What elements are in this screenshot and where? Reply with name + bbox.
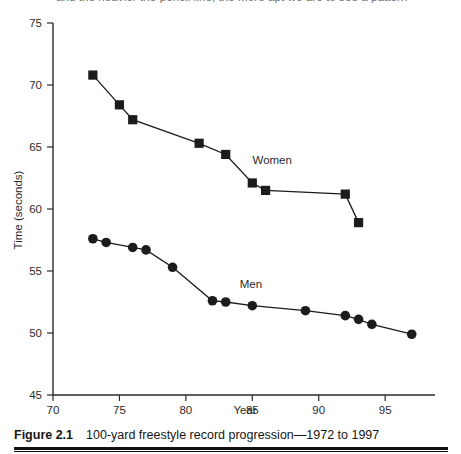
- y-axis-title: Time (seconds): [12, 170, 24, 249]
- data-point-square: [221, 150, 230, 159]
- y-tick-label: 45: [29, 389, 42, 401]
- data-point-square: [88, 70, 97, 79]
- axis-lines: [53, 23, 435, 395]
- x-axis-title: Year: [233, 404, 256, 416]
- data-point-circle: [407, 329, 417, 339]
- figure-caption-text: 100-yard freestyle record progression—19…: [86, 428, 379, 442]
- data-point-square: [195, 139, 204, 148]
- caption-rule-thin: [14, 451, 448, 452]
- y-tick-label: 70: [29, 79, 42, 91]
- x-tick-label: 80: [179, 404, 192, 416]
- data-point-circle: [340, 311, 350, 321]
- x-tick-label: 90: [312, 404, 325, 416]
- data-point-circle: [141, 245, 151, 255]
- series-line-women: [93, 75, 359, 223]
- series-women: [88, 70, 363, 227]
- y-tick-label: 75: [29, 17, 42, 29]
- figure-caption-label: Figure 2.1: [14, 428, 73, 442]
- data-point-circle: [88, 234, 98, 244]
- data-point-circle: [354, 315, 364, 325]
- figure-caption: Figure 2.1100-yard freestyle record prog…: [14, 428, 454, 442]
- caption-rule-thick: [14, 447, 448, 450]
- x-tick-label: 95: [379, 404, 392, 416]
- x-axis-ticks: 707580859095: [47, 395, 392, 416]
- data-point-circle: [301, 306, 311, 316]
- data-point-circle: [208, 296, 218, 306]
- data-point-circle: [221, 297, 231, 307]
- data-series-group: [88, 70, 416, 339]
- data-point-square: [354, 218, 363, 227]
- y-tick-label: 55: [29, 265, 42, 277]
- data-point-square: [248, 178, 257, 187]
- y-tick-label: 50: [29, 327, 42, 339]
- y-tick-label: 60: [29, 203, 42, 215]
- data-point-circle: [367, 320, 377, 330]
- data-point-circle: [168, 262, 178, 272]
- data-point-square: [341, 190, 350, 199]
- figure-container: and the heavier the pencil line, the mor…: [0, 0, 461, 454]
- data-point-circle: [247, 301, 257, 311]
- series-labels-group: WomenMen: [240, 154, 292, 290]
- series-label-women: Women: [253, 154, 292, 166]
- data-point-circle: [128, 243, 138, 253]
- data-point-square: [128, 115, 137, 124]
- line-chart: 45505560657075 707580859095 WomenMen Tim…: [0, 0, 461, 425]
- x-tick-label: 70: [47, 404, 60, 416]
- data-point-circle: [101, 238, 111, 248]
- chart-axes: [53, 23, 435, 395]
- x-tick-label: 75: [113, 404, 126, 416]
- y-axis-ticks: 45505560657075: [29, 17, 53, 401]
- data-point-square: [115, 100, 124, 109]
- series-label-men: Men: [240, 278, 262, 290]
- data-point-square: [261, 186, 270, 195]
- y-tick-label: 65: [29, 141, 42, 153]
